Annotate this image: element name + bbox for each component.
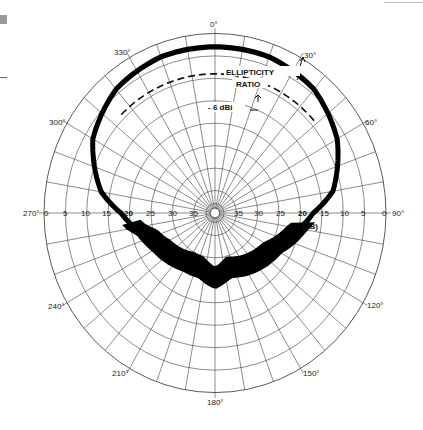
r-left-30: 30 (168, 209, 177, 218)
annotation-ratio: RATIO (236, 80, 260, 89)
angle-label-210: 210° (112, 369, 129, 378)
grid-spoke (185, 217, 214, 390)
r-right-0: 0 (382, 209, 387, 218)
angle-label-180: 180° (207, 398, 224, 407)
r-right-10: 10 (340, 209, 349, 218)
pattern-fill (122, 220, 315, 289)
polar-plot-area (39, 28, 391, 398)
grid-spoke (216, 36, 245, 209)
grid-spoke (219, 152, 376, 212)
angle-label-90: 90° (392, 209, 404, 218)
angle-label-240: 240° (48, 302, 65, 311)
angle-label-60: 60° (365, 118, 377, 127)
angle-label-270: 270° (23, 209, 40, 218)
annotation-6dbi: - 6 dBi (208, 103, 232, 112)
r-right-30: 30 (254, 209, 263, 218)
r-right-25: 25 (276, 209, 285, 218)
radial-unit-label: (dB) (302, 222, 318, 231)
polar-chart: 0° 30° 60° 90° 120° 150° 180° 210° 240° … (0, 0, 423, 430)
grid-spoke (47, 182, 211, 212)
grid-spoke (216, 217, 245, 390)
grid-spoke (218, 75, 325, 209)
r-left-25: 25 (146, 209, 155, 218)
angle-label-330: 330° (114, 48, 131, 57)
angle-label-150: 150° (303, 369, 320, 378)
minus-6dbi-dashed-reference (121, 74, 315, 122)
angle-label-120: 120° (367, 301, 384, 310)
angular-grid-spokes (39, 28, 391, 398)
radial-tick-labels: 0 5 10 15 20 25 30 35 35 30 25 20 15 10 … (44, 209, 387, 231)
pattern-trace (93, 47, 338, 280)
angle-label-300: 300° (49, 118, 66, 127)
grid-spoke (185, 36, 214, 209)
r-left-20: 20 (124, 209, 133, 218)
r-right-20: 20 (298, 209, 307, 218)
radiation-pattern-trace (93, 47, 338, 289)
r-left-0: 0 (44, 209, 49, 218)
r-right-15: 15 (320, 209, 329, 218)
r-left-10: 10 (81, 209, 90, 218)
r-right-35: 35 (234, 209, 243, 218)
grid-spoke (218, 216, 325, 350)
angle-label-30: 30° (304, 51, 316, 60)
angle-label-0: 0° (210, 20, 218, 29)
grid-spoke (54, 152, 211, 212)
r-right-5: 5 (361, 209, 366, 218)
r-left-15: 15 (102, 209, 111, 218)
r-left-35: 35 (189, 209, 198, 218)
grid-spoke (157, 44, 214, 209)
annotation-ellipticity: ELLIPTICITY (226, 68, 275, 77)
grid-spoke (219, 182, 383, 212)
grid-spoke (105, 75, 212, 209)
r-left-5: 5 (63, 209, 68, 218)
